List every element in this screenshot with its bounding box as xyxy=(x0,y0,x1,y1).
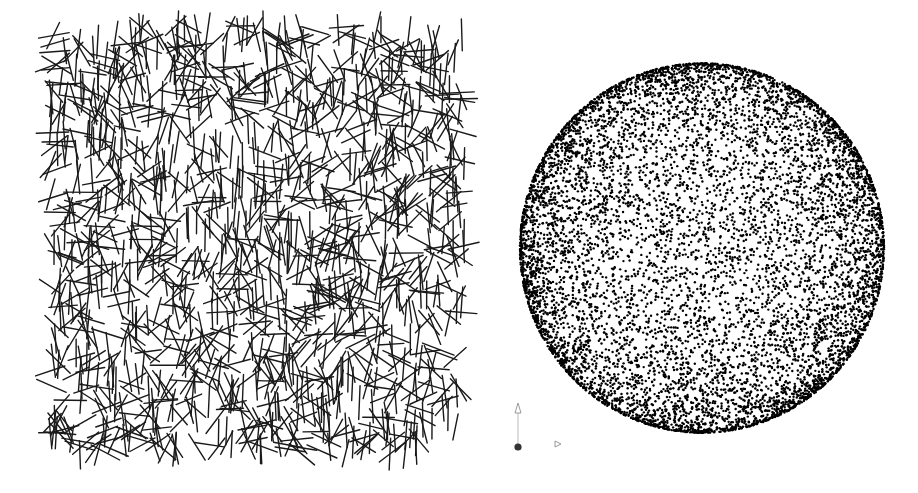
origin-dot-icon xyxy=(514,443,521,450)
x-axis-arrow-icon xyxy=(555,441,561,447)
axis-orientation-gizmo xyxy=(505,395,575,460)
3d-viewport[interactable] xyxy=(0,0,918,493)
sphere-point-cloud-plot xyxy=(0,0,918,493)
y-axis-arrow-icon xyxy=(515,403,521,445)
